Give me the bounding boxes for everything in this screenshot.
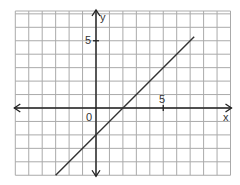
y-axis-label: y [100, 11, 106, 23]
origin-label: 0 [86, 111, 92, 123]
x-axis-label: x [223, 111, 229, 123]
y-tick-label: 5 [85, 34, 91, 46]
coordinate-plane: 5 5 0 x y [0, 0, 240, 185]
grid [15, 11, 230, 175]
x-tick-label: 5 [159, 93, 165, 105]
plotted-line [56, 37, 195, 176]
